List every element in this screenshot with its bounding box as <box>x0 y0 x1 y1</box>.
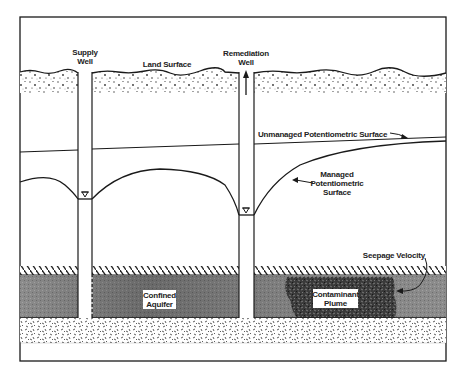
unmanaged-surface-label: Unmanaged Potentiometric Surface <box>258 130 388 139</box>
groundwater-remediation-diagram: Supply Well Land Surface Remediation Wel… <box>0 0 465 381</box>
managed-surface-label-line3: Surface <box>323 188 352 197</box>
remediation-well-label: Remediation <box>223 49 269 58</box>
confined-aquifer-label-box: Confined Aquifer <box>143 290 176 309</box>
seepage-velocity-label: Seepage Velocity <box>363 251 426 260</box>
land-surface-label: Land Surface <box>143 60 192 69</box>
supply-well-label: Supply <box>72 48 98 57</box>
contaminant-plume-label-line2: Plume <box>324 299 348 308</box>
supply-well-label-line2: Well <box>77 57 93 66</box>
remediation-well-label-line2: Well <box>238 58 254 67</box>
bedrock-base <box>20 318 446 343</box>
contaminant-plume-label-box: Contaminant Plume <box>312 289 359 308</box>
contaminant-plume-label: Contaminant <box>312 290 359 299</box>
confined-aquifer-label-line2: Aquifer <box>146 300 173 309</box>
remediation-well <box>239 70 254 318</box>
managed-surface-label: Managed <box>320 170 354 179</box>
confined-aquifer-label: Confined <box>143 291 176 300</box>
managed-surface-label-line2: Potentiometric <box>310 179 364 188</box>
